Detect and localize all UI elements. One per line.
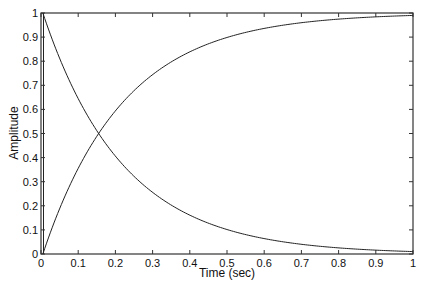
y-tick-label: 0.2 xyxy=(23,200,38,212)
x-tick-label: 0.2 xyxy=(108,257,123,269)
y-tick-label: 0.6 xyxy=(23,103,38,115)
x-tick-label: 0.7 xyxy=(294,257,309,269)
x-tick-label: 1 xyxy=(410,257,416,269)
decaying-curve xyxy=(43,13,413,252)
y-tick-label: 0.5 xyxy=(23,128,38,140)
y-tick-label: 0.4 xyxy=(23,152,38,164)
x-tick-label: 0.6 xyxy=(257,257,272,269)
x-axis-ticks: 00.10.20.30.40.50.60.70.80.91 xyxy=(38,13,416,269)
rising-curve xyxy=(43,15,413,254)
step-response-chart: 00.10.20.30.40.50.60.70.80.91 00.10.20.3… xyxy=(0,0,422,287)
x-tick-label: 0.4 xyxy=(182,257,197,269)
x-tick-label: 0.9 xyxy=(368,257,383,269)
y-tick-label: 0.9 xyxy=(23,31,38,43)
y-tick-label: 0.7 xyxy=(23,79,38,91)
plot-area xyxy=(41,13,413,254)
axes-box xyxy=(41,13,413,254)
x-axis-label: Time (sec) xyxy=(199,266,255,280)
y-tick-label: 0.3 xyxy=(23,176,38,188)
x-tick-label: 0.1 xyxy=(71,257,86,269)
y-tick-label: 0 xyxy=(32,248,38,260)
x-tick-label: 0 xyxy=(38,257,44,269)
x-tick-label: 0.8 xyxy=(331,257,346,269)
y-axis-label: Amplitude xyxy=(7,106,21,160)
y-tick-label: 0.1 xyxy=(23,224,38,236)
y-tick-label: 0.8 xyxy=(23,55,38,67)
y-tick-label: 1 xyxy=(32,7,38,19)
y-axis-ticks: 00.10.20.30.40.50.60.70.80.91 xyxy=(23,7,413,260)
x-tick-label: 0.3 xyxy=(145,257,160,269)
